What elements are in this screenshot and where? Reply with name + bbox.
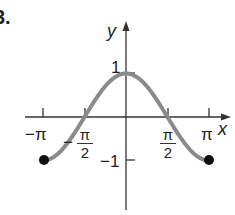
y-axis-label: y bbox=[107, 22, 116, 40]
problem-number: 3. bbox=[0, 7, 11, 27]
frac-numerator: π bbox=[80, 126, 90, 143]
y-axis-arrow-icon bbox=[123, 21, 130, 31]
x-tick-label-pi-half: π 2 bbox=[160, 127, 176, 160]
x-tick-label-neg-pi-half-sign: − bbox=[63, 134, 73, 151]
y-tick-label-neg-one: −1 bbox=[100, 153, 119, 170]
x-axis-label: x bbox=[218, 120, 227, 138]
x-tick-label-neg-pi-half: π 2 bbox=[77, 127, 93, 160]
x-tick-label-pi: π bbox=[201, 126, 213, 143]
endpoint-right-dot bbox=[204, 155, 214, 165]
x-tick-label-neg-pi: −π bbox=[25, 126, 47, 143]
frac-numerator: π bbox=[163, 126, 173, 143]
frac-denominator: 2 bbox=[164, 144, 172, 161]
cosine-graph bbox=[0, 0, 235, 215]
frac-denominator: 2 bbox=[81, 144, 89, 161]
endpoint-left-dot bbox=[39, 155, 49, 165]
y-tick-label-one: 1 bbox=[111, 59, 120, 76]
